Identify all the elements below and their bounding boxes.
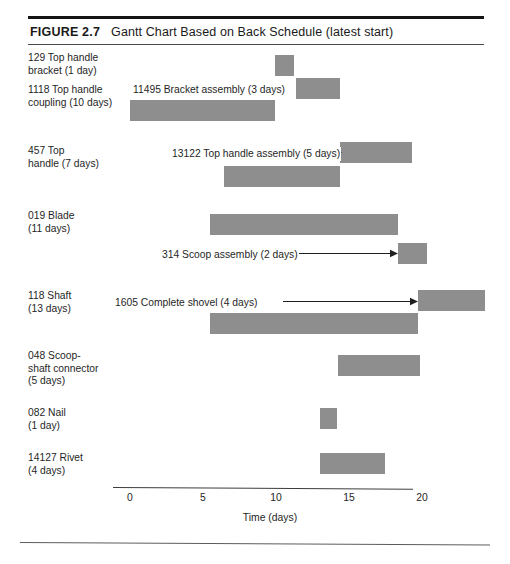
figure-number: FIGURE 2.7 bbox=[30, 25, 100, 39]
header-bottom-rule bbox=[28, 44, 484, 45]
x-tick-10: 10 bbox=[264, 492, 288, 503]
gantt-bar-082[interactable] bbox=[320, 408, 337, 429]
gantt-bar-1118[interactable] bbox=[130, 100, 275, 121]
x-tick-20: 20 bbox=[410, 492, 434, 503]
x-tick-15: 15 bbox=[337, 492, 361, 503]
figure-caption: FIGURE 2.7 Gantt Chart Based on Back Sch… bbox=[28, 19, 484, 44]
inline-note-13122: 13122 Top handle assembly (5 days) bbox=[170, 147, 341, 161]
gantt-bar-14127[interactable] bbox=[320, 453, 385, 474]
task-label-048: 048 Scoop- shaft connector (5 days) bbox=[28, 350, 146, 388]
task-label-129: 129 Top handle bracket (1 day) bbox=[28, 52, 138, 77]
task-label-082: 082 Nail (1 day) bbox=[28, 407, 138, 432]
x-tick-5: 5 bbox=[191, 492, 215, 503]
gantt-bar-129[interactable] bbox=[275, 55, 294, 76]
task-label-457: 457 Top handle (7 days) bbox=[28, 145, 138, 170]
task-label-019: 019 Blade (11 days) bbox=[28, 210, 138, 235]
x-tick-0: 0 bbox=[118, 492, 142, 503]
gantt-bar-1605[interactable] bbox=[418, 290, 485, 311]
figure-bottom-rule bbox=[20, 542, 490, 546]
leader-arrow-314 bbox=[287, 248, 399, 259]
gantt-bar-019[interactable] bbox=[210, 214, 398, 235]
inline-note-1605: 1605 Complete shovel (4 days) bbox=[113, 296, 259, 310]
gantt-bar-11495[interactable] bbox=[296, 78, 340, 99]
gantt-bar-457[interactable] bbox=[224, 166, 340, 187]
x-axis-caption: Time (days) bbox=[0, 512, 510, 523]
inline-note-314: 314 Scoop assembly (2 days) bbox=[160, 248, 299, 262]
gantt-chart: 129 Top handle bracket (1 day) 11495 Bra… bbox=[0, 52, 510, 492]
gantt-bar-048[interactable] bbox=[338, 355, 420, 376]
figure-title: Gantt Chart Based on Back Schedule (late… bbox=[111, 25, 393, 39]
inline-note-11495: 11495 Bracket assembly (3 days) bbox=[131, 83, 286, 97]
x-axis-caption-text: Time (days) bbox=[213, 512, 297, 523]
gantt-bar-118[interactable] bbox=[210, 313, 418, 334]
leader-arrow-1605 bbox=[283, 296, 419, 307]
gantt-bar-13122[interactable] bbox=[340, 142, 412, 163]
gantt-bar-314[interactable] bbox=[398, 243, 427, 264]
task-label-1118: 1118 Top handle coupling (10 days) bbox=[28, 84, 140, 109]
task-label-14127: 14127 Rivet (4 days) bbox=[28, 452, 138, 477]
figure-header: FIGURE 2.7 Gantt Chart Based on Back Sch… bbox=[28, 16, 484, 45]
